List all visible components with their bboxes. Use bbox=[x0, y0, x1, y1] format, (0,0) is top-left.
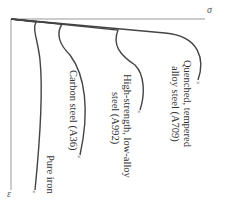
fracture-mark-iron: × bbox=[32, 188, 36, 196]
curve-iron bbox=[11, 19, 41, 190]
label-a709-line1: Quenched, tempered bbox=[181, 60, 193, 147]
label-a709-line2: alloy steel (A709) bbox=[169, 66, 181, 142]
fracture-mark-a36: × bbox=[77, 153, 81, 161]
fracture-mark-a992: × bbox=[137, 108, 141, 116]
label-iron: Pure iron bbox=[44, 155, 56, 194]
label-a992-line1: High-strength, low-alloy bbox=[121, 74, 133, 178]
fracture-mark-a709: × bbox=[196, 79, 200, 87]
label-a36: Carbon steel (A36) bbox=[67, 70, 79, 150]
sigma-axis-label: σ bbox=[207, 4, 212, 15]
label-a992-line2: steel (A992) bbox=[109, 92, 121, 144]
epsilon-axis-label: ε bbox=[7, 188, 11, 199]
